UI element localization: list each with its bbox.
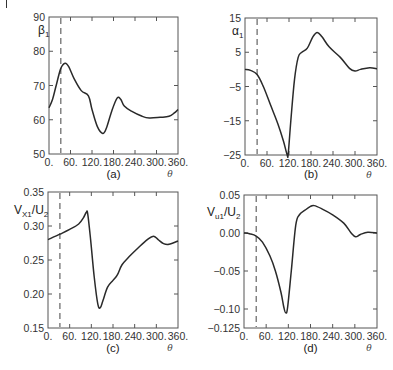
- x-tick-label: 240.: [323, 157, 343, 169]
- x-tick-label: 60.: [260, 157, 275, 169]
- x-tick-label: 60.: [62, 330, 77, 342]
- x-axis-label: θ: [167, 343, 173, 353]
- y-tick-label: 60: [33, 114, 45, 126]
- panel-label: (d): [303, 342, 317, 354]
- x-tick-label: 360.: [367, 330, 387, 342]
- y-tick-label: 5: [235, 46, 241, 58]
- x-tick-label: 120.: [278, 330, 298, 342]
- x-tick-label: 120.: [279, 157, 299, 169]
- y-axis-label: Vu1/U2: [207, 205, 241, 221]
- y-tick-label: 50: [33, 148, 45, 160]
- y-tick-label: 0.15: [24, 322, 45, 334]
- x-tick-label: 0.: [240, 330, 249, 342]
- x-tick-label: 240.: [322, 330, 342, 342]
- x-axis-label: θ: [366, 343, 372, 353]
- y-tick-label: 0.30: [24, 220, 45, 232]
- x-axis-label: θ: [167, 169, 173, 179]
- x-tick-label: 300.: [146, 330, 166, 342]
- y-tick-label: 0.25: [24, 254, 45, 266]
- plot-frame: [49, 17, 178, 154]
- panel-label: (a): [106, 168, 120, 180]
- x-tick-label: 180.: [103, 330, 123, 342]
- figure-canvas: 0.60.120.180.240.300.360.5060708090β1θ(a…: [0, 0, 393, 370]
- y-tick-label: 15: [229, 12, 241, 24]
- x-tick-label: 60.: [259, 330, 274, 342]
- plot-frame: [48, 192, 178, 328]
- panel-label: (b): [304, 168, 318, 180]
- y-tick-label: 80: [33, 45, 45, 57]
- x-tick-label: 120.: [82, 156, 102, 168]
- y-tick-label: −15: [223, 115, 241, 127]
- x-tick-label: 0.: [44, 330, 53, 342]
- y-axis-label: α1: [232, 24, 244, 40]
- x-tick-label: 300.: [146, 156, 166, 168]
- y-tick-label: −25: [223, 149, 241, 161]
- panel-b-alpha1: 0.60.120.180.240.300.360.−25−15−5515α1θ(…: [223, 12, 387, 180]
- x-tick-label: 360.: [367, 157, 387, 169]
- data-curve: [244, 205, 377, 313]
- y-tick-label: 0.05: [220, 189, 241, 201]
- x-axis-label: θ: [366, 170, 372, 180]
- x-tick-label: 360.: [168, 330, 188, 342]
- data-curve: [48, 211, 178, 308]
- panel-a-beta1: 0.60.120.180.240.300.360.5060708090β1θ(a…: [33, 11, 188, 180]
- data-curve: [245, 32, 377, 157]
- y-tick-label: 0.35: [24, 186, 45, 198]
- y-tick-label: −0.05: [213, 265, 240, 277]
- panel-label: (c): [106, 342, 120, 354]
- y-tick-label: 0.00: [220, 227, 241, 239]
- x-tick-label: 0.: [45, 156, 54, 168]
- y-tick-label: 70: [33, 80, 45, 92]
- y-tick-label: −0.10: [213, 303, 240, 315]
- y-axis-label: β1: [38, 23, 50, 39]
- x-tick-label: 120.: [81, 330, 101, 342]
- panel-c-vx1-u2: 0.60.120.180.240.300.360.0.150.200.250.3…: [14, 186, 188, 354]
- x-tick-label: 240.: [124, 330, 144, 342]
- y-axis-label: VX1/U2: [14, 203, 49, 219]
- x-tick-label: 60.: [63, 156, 78, 168]
- panel-d-vu1-u2: 0.60.120.180.240.300.360.−0.125−0.10−0.0…: [207, 189, 387, 354]
- x-tick-label: 240.: [125, 156, 145, 168]
- x-tick-label: 180.: [103, 156, 123, 168]
- plot-frame: [244, 195, 377, 328]
- x-tick-label: 360.: [168, 156, 188, 168]
- y-tick-label: 90: [33, 11, 45, 23]
- y-tick-label: −0.125: [208, 322, 241, 334]
- x-tick-label: 180.: [300, 330, 320, 342]
- y-tick-label: −5: [229, 81, 241, 93]
- plot-frame: [245, 18, 377, 155]
- y-tick-label: 0.20: [24, 288, 45, 300]
- x-tick-label: 0.: [241, 157, 250, 169]
- x-tick-label: 300.: [345, 157, 365, 169]
- data-curve: [49, 63, 178, 133]
- x-tick-label: 300.: [345, 330, 365, 342]
